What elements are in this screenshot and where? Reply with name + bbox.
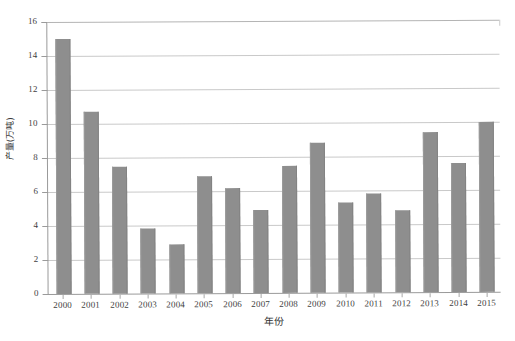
x-axis-tick-2000 (63, 295, 64, 299)
x-axis-tick-label-2015: 2015 (467, 298, 507, 308)
bar-2013 (423, 132, 439, 292)
bar-2011 (366, 194, 381, 293)
x-axis-tick-2013 (430, 293, 431, 297)
bar-2009 (310, 143, 326, 293)
gridline-10 (48, 122, 500, 125)
bar-2015 (479, 122, 495, 292)
y-axis-tick-label-text: 16 (13, 17, 37, 26)
y-axis-ticks-group (0, 0, 514, 1)
bar-2010 (338, 202, 353, 292)
y-axis-tick-label: 2 (8, 255, 38, 265)
x-axis-tick-2003 (148, 295, 149, 299)
y-axis-tick-label: 16 (7, 17, 37, 27)
x-axis-tick-2012 (402, 293, 403, 297)
y-axis-title: 产量(万吨) (5, 91, 16, 187)
chart-plot-wrapper: 产量(万吨) 0246810121416 2000200120022003200… (0, 0, 515, 341)
y-axis-tick-label-text: 6 (14, 187, 38, 196)
x-axis-tick-2006 (233, 294, 234, 298)
bar-2006 (225, 188, 241, 293)
x-axis-tick-2004 (176, 294, 177, 298)
x-axis-tick-labels-group: 2000200120022003200420052006200720082009… (0, 0, 514, 1)
gridline-14 (47, 54, 499, 57)
x-axis-title: 年份 (48, 315, 501, 329)
bar-2005 (197, 176, 213, 293)
x-axis-tick-2002 (120, 295, 121, 299)
x-axis-tick-2010 (346, 294, 347, 298)
y-axis-tick-label: 14 (7, 51, 37, 61)
y-axis-tick-label: 0 (9, 289, 39, 299)
y-axis-tick-label: 8 (8, 153, 38, 163)
plot-right-frame (499, 20, 500, 26)
y-axis-tick-label: 4 (8, 221, 38, 231)
bar-2007 (254, 210, 269, 293)
x-axis-tick-2007 (261, 294, 262, 298)
bar-2001 (84, 112, 100, 294)
x-axis-tick-2009 (317, 294, 318, 298)
bar-chart: 产量(万吨) 0246810121416 2000200120022003200… (0, 0, 515, 341)
gridlines-group (0, 0, 514, 1)
y-axis-tick-label-text: 8 (14, 153, 38, 162)
x-axis-tick-2005 (204, 294, 205, 298)
x-axis-tick-2001 (91, 295, 92, 299)
gridline-12 (48, 88, 500, 91)
y-axis-tick-label-text: 0 (15, 289, 39, 298)
y-axis-tick-label: 12 (8, 85, 38, 95)
x-axis-tick-2014 (459, 293, 460, 297)
y-axis-tick-label: 10 (8, 119, 38, 129)
y-axis-tick-label-text: 10 (14, 119, 38, 128)
bar-2012 (395, 211, 410, 293)
y-axis-tick-label-text: 2 (14, 255, 38, 264)
bar-2002 (112, 166, 128, 294)
gridline-16 (47, 20, 499, 23)
bar-2004 (169, 244, 184, 293)
y-axis-tick-label: 6 (8, 187, 38, 197)
y-axis-tick-labels-group: 0246810121416 (0, 0, 514, 1)
y-axis-tick-label-text: 12 (14, 85, 38, 94)
x-axis-tick-2008 (289, 294, 290, 298)
bar-2003 (141, 229, 156, 294)
bar-2014 (451, 163, 467, 292)
bar-2000 (55, 39, 71, 294)
x-axis-tick-2015 (487, 293, 488, 297)
y-axis-tick-label-text: 4 (14, 221, 38, 230)
bar-2008 (282, 165, 298, 293)
x-axis-tick-2011 (374, 293, 375, 297)
x-axis-ticks-group (0, 0, 514, 1)
bars-group (0, 0, 514, 1)
y-axis-tick-label-text: 14 (13, 51, 37, 60)
